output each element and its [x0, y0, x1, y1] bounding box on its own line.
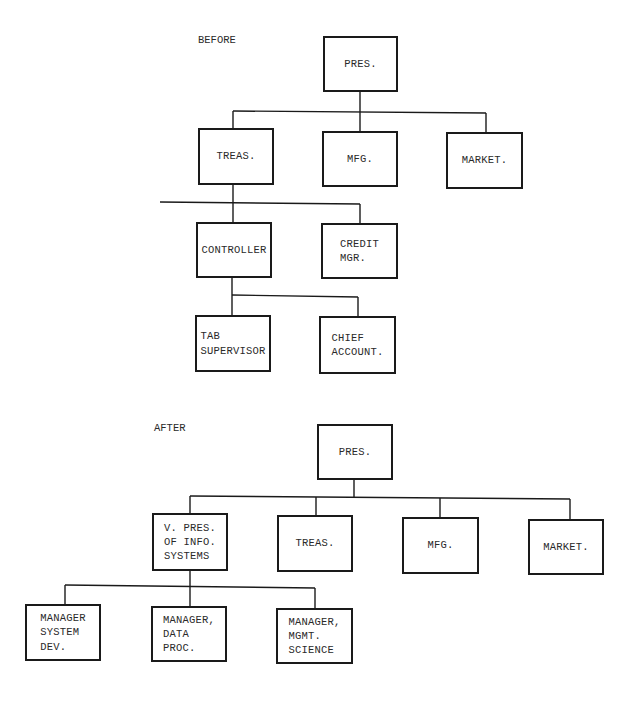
after-mgr-data-proc-node: MANAGER, DATA PROC.	[151, 606, 227, 662]
after-mgr-mgmt-science-node: MANAGER, MGMT. SCIENCE	[276, 608, 353, 664]
connector-lines	[0, 0, 636, 701]
before-chief-account-node: CHIEF ACCOUNT.	[319, 316, 396, 374]
after-mgr-system-dev-node: MANAGER SYSTEM DEV.	[25, 604, 101, 661]
before-controller-node: CONTROLLER	[196, 222, 272, 278]
before-pres-node: PRES.	[323, 36, 398, 92]
org-chart-canvas: BEFORE PRES. TREAS. MFG. MARKET. CONTROL…	[0, 0, 636, 701]
after-mfg-node: MFG.	[402, 517, 479, 574]
before-tab-supervisor-node: TAB SUPERVISOR	[195, 315, 271, 372]
before-credit-mgr-node: CREDIT MGR.	[321, 223, 398, 279]
after-label: AFTER	[154, 422, 186, 434]
after-vp-info-systems-node: V. PRES. OF INFO. SYSTEMS	[152, 513, 228, 571]
before-treas-node: TREAS.	[198, 128, 274, 185]
after-pres-node: PRES.	[317, 424, 393, 480]
before-mfg-node: MFG.	[322, 131, 398, 187]
before-market-node: MARKET.	[446, 132, 523, 189]
after-treas-node: TREAS.	[277, 515, 353, 572]
after-market-node: MARKET.	[528, 519, 604, 575]
before-label: BEFORE	[198, 34, 236, 46]
